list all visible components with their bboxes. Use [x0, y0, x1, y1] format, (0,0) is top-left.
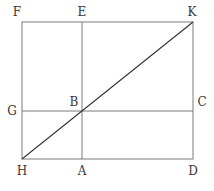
diagonal-line-hk [22, 22, 193, 159]
point-label-g: G [7, 104, 17, 118]
point-label-h: H [17, 164, 27, 178]
point-label-f: F [13, 5, 21, 19]
geometric-diagram: F E K G B C H A D [0, 0, 214, 191]
point-label-c: C [197, 95, 206, 109]
point-label-k: K [188, 5, 198, 19]
point-label-d: D [188, 164, 198, 178]
point-label-b: B [70, 95, 79, 109]
point-label-a: A [77, 164, 87, 178]
point-label-e: E [78, 5, 87, 19]
